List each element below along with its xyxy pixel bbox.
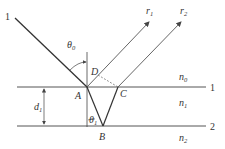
theta1-label: θ1 (89, 114, 97, 126)
medium-n1-label: n1 (179, 97, 187, 109)
point-a-label: A (74, 90, 82, 101)
theta0-label: θ0 (67, 39, 76, 51)
ray-r1 (87, 22, 149, 87)
thickness-label: d1 (34, 101, 42, 113)
point-c-label: C (120, 88, 127, 99)
theta0-arc (70, 62, 86, 70)
incident-ray (15, 18, 87, 87)
ray-r1-label: r1 (146, 5, 153, 17)
dashed-perpendicular-dc (98, 75, 118, 87)
medium-n2-label: n2 (179, 132, 188, 144)
ray-r2-label: r2 (180, 5, 188, 17)
interface-2-label: 2 (210, 121, 215, 132)
point-b-label: B (99, 131, 105, 142)
interface-1-label: 1 (210, 82, 215, 93)
incident-ray-label: 1 (5, 11, 10, 22)
medium-n0-label: n0 (179, 71, 188, 83)
reflected-ray-bc (103, 87, 118, 126)
thin-film-diagram: 1 θ0 D A C B θ1 d1 r1 r2 n0 n1 n2 1 2 (0, 0, 225, 149)
ray-r2 (118, 22, 181, 87)
point-d-label: D (90, 66, 99, 77)
